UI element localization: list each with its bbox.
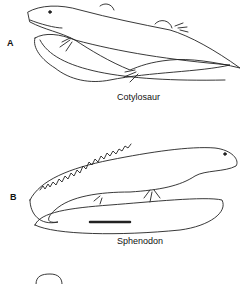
cotylosaur-drawing xyxy=(28,4,240,82)
illustration-figure: A Cotylosaur B Sphenodon xyxy=(0,0,248,284)
partial-drawing-c xyxy=(36,274,62,284)
caption-cotylosaur: Cotylosaur xyxy=(117,92,160,102)
caption-sphenodon: Sphenodon xyxy=(117,236,163,246)
panel-letter-b: B xyxy=(10,192,17,202)
sphenodon-drawing xyxy=(30,144,237,234)
panel-letter-a: A xyxy=(7,38,14,48)
